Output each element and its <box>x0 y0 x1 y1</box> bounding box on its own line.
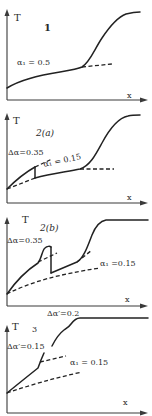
x-axis-arrow-icon <box>140 201 148 206</box>
panel-2a: T 2(a) x Δα=0.35 α₁ = 0.15 <box>5 113 149 206</box>
x-axis-label: x <box>127 193 132 202</box>
dashed-curve <box>82 64 112 67</box>
x-axis-arrow-icon <box>140 304 148 309</box>
dashed-lower-branch <box>7 178 35 189</box>
y-axis-arrow-icon <box>5 217 10 224</box>
panel-title: 1 <box>44 22 51 33</box>
x-axis-arrow-icon <box>140 411 148 416</box>
alpha-annotation: α₁ =0.15 <box>100 259 136 268</box>
solid-curve-upper <box>7 167 35 189</box>
panel-title: 2(b) <box>39 223 59 233</box>
dashed-alpha-branch <box>40 356 66 362</box>
y-axis-label: T <box>14 12 21 23</box>
y-axis-arrow-icon <box>5 325 10 332</box>
panel-1: T 1 x α₁ = 0.5 <box>5 9 149 103</box>
figure: T 1 x α₁ = 0.5 T 2(a) x Δα=0.35 α₁ = 0.1… <box>0 0 152 416</box>
delta-alpha-annotation: Δα=0.35 <box>7 236 43 245</box>
delta-alpha-annotation: Δα=0.35 <box>8 148 44 157</box>
alpha-annotation: α₁ = 0.15 <box>70 358 108 367</box>
x-axis-arrow-icon <box>140 98 148 103</box>
y-axis-arrow-icon <box>5 113 10 120</box>
y-axis-label: T <box>13 115 20 126</box>
solid-curve <box>7 318 148 393</box>
x-axis-label: x <box>123 398 128 407</box>
panel-title: 2(a) <box>35 128 55 138</box>
panel-title: 3 <box>32 325 37 334</box>
y-axis-label: T <box>12 321 19 332</box>
delta-alpha-prime-annotation: Δα′=0.2 <box>47 309 79 318</box>
panel-2b: T 2(b) x Δα=0.35 α₁ =0.15 <box>5 214 149 309</box>
alpha-annotation: α₁ = 0.5 <box>17 58 50 67</box>
x-axis-label: x <box>125 295 130 304</box>
solid-curve <box>7 12 140 88</box>
y-axis-label: T <box>22 214 29 225</box>
y-axis-arrow-icon <box>5 9 10 16</box>
x-axis-label: x <box>127 91 132 100</box>
panel-3: T 3 x Δα′=0.15 α₁ = 0.15 <box>5 318 149 416</box>
solid-curve-initial <box>7 246 51 294</box>
delta-alpha-prime-annotation: Δα′=0.15 <box>7 342 45 351</box>
dashed-lower-branch <box>7 372 82 393</box>
